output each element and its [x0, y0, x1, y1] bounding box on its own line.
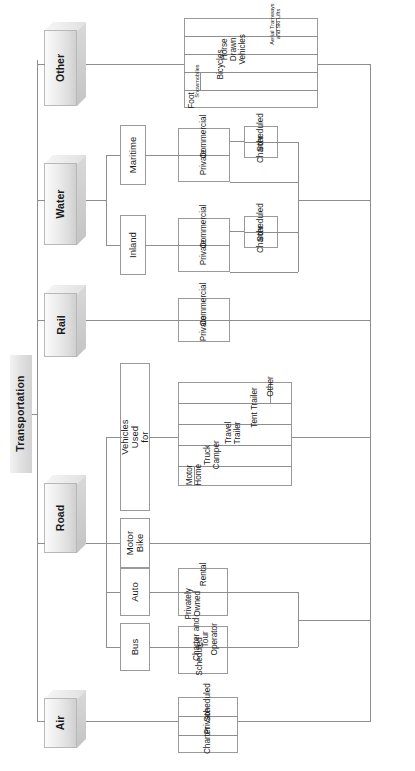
node-label-maritime: Maritime: [128, 137, 138, 173]
node-label-auto: Auto: [130, 582, 140, 602]
node-box-inland[interactable]: Inland: [120, 215, 146, 275]
inland-stub-line: [106, 245, 120, 246]
leaf-other-horse-drawn: Horse Drawn Vehicles: [221, 26, 248, 72]
leaf-veh-motor-home: Motor Home: [186, 454, 204, 496]
node-label-auto-wrap: Auto: [121, 569, 149, 615]
root-node-label: Transportation: [15, 362, 26, 466]
node-label-motor-bike-wrap: Motor Bike: [121, 519, 149, 567]
branch-label-road: Road: [55, 505, 67, 531]
auto-out-line: [150, 592, 178, 593]
auto-stub-line: [106, 592, 120, 593]
node-label-vehicles-used-for: Vehicles Used for: [120, 419, 150, 454]
node-box-maritime[interactable]: Maritime: [120, 125, 146, 185]
leaf-veh-truck-camper: Truck Camper: [204, 434, 222, 476]
leaf-veh-tent-trailer: Tent Trailer: [251, 386, 260, 428]
bus-stub-line: [106, 647, 120, 648]
branch-box-other-side: [77, 22, 86, 106]
node-label-bus-wrap: Bus: [121, 624, 149, 670]
branch-box-air-side: [77, 690, 86, 748]
road-right-merge-out: [298, 620, 370, 621]
node-label-maritime-wrap: Maritime: [121, 126, 145, 184]
other-to-trunk-line: [318, 64, 370, 65]
leaf-veh-tent-trailer-text: Tent Trailer: [250, 387, 259, 428]
maritime-private-to-trunk: [230, 182, 298, 183]
leaf-auto-rental: Rental: [200, 552, 209, 596]
node-label-inland-wrap: Inland: [121, 216, 145, 274]
diagram-canvas: Transportation Other Water Rail: [0, 0, 415, 771]
other-divider-2: [184, 54, 318, 55]
road-connector-line: [86, 543, 106, 544]
water-to-trunk-line: [298, 200, 370, 201]
branch-line-water: [37, 200, 45, 201]
leaf-veh-motor-home-text: Motor Home: [185, 464, 203, 486]
node-label-motor-bike: Motor Bike: [125, 529, 145, 557]
node-box-auto[interactable]: Auto: [120, 568, 150, 616]
inland-sub-to-trunk: [278, 232, 298, 233]
branch-line-rail: [37, 320, 45, 321]
maritime-commercial-out-line: [230, 141, 244, 142]
motorbike-to-trunk-line: [150, 543, 370, 544]
leaf-inland-scheduled: Scheduled: [257, 201, 266, 243]
branch-box-other[interactable]: Other: [44, 22, 86, 106]
leaf-maritime-commercial: Commercial: [200, 110, 209, 162]
branch-box-rail[interactable]: Rail: [44, 285, 86, 357]
node-box-bus[interactable]: Bus: [120, 623, 150, 671]
branch-box-water[interactable]: Water: [44, 155, 86, 245]
branch-box-air[interactable]: Air: [44, 690, 86, 748]
right-trunk-line: [370, 64, 371, 722]
other-divider-1: [184, 36, 318, 37]
leaf-maritime-scheduled: Scheduled: [257, 111, 266, 153]
branch-box-rail-side: [77, 285, 86, 357]
leaf-other-aerial-text: Aerial Tramways and Ski Lifts: [269, 3, 281, 44]
root-stub-line: [32, 414, 38, 415]
leaf-other-snowmobiles: Snowmobiles: [194, 58, 200, 104]
rail-to-trunk-line: [230, 320, 370, 321]
auto-to-trunk-line: [228, 592, 298, 593]
node-box-motor-bike[interactable]: Motor Bike: [120, 518, 150, 568]
motorbike-stub-line: [106, 543, 120, 544]
leaf-veh-travel-trailer: Travel Trailer: [225, 412, 243, 454]
water-connector-line: [86, 200, 106, 201]
rail-connector-line: [86, 320, 178, 321]
branch-box-water-side: [77, 155, 86, 245]
leaf-veh-travel-trailer-text: Travel Trailer: [224, 421, 242, 444]
inland-out-line: [146, 245, 178, 246]
vehicles-out-line: [150, 437, 178, 438]
branch-line-other: [37, 64, 45, 65]
branch-line-air: [37, 721, 45, 722]
node-label-vehicles-wrap: Vehicles Used for: [121, 364, 149, 510]
branch-label-water-wrap: Water: [44, 163, 77, 245]
inland-private-to-trunk: [230, 272, 298, 273]
maritime-sub-to-trunk: [278, 142, 298, 143]
node-label-inland: Inland: [128, 232, 138, 258]
branch-label-air-wrap: Air: [44, 698, 77, 748]
branch-label-water: Water: [54, 190, 66, 219]
bus-to-trunk-line: [228, 647, 298, 648]
branch-label-rail-wrap: Rail: [44, 293, 77, 357]
water-split-line: [106, 155, 107, 245]
branch-box-road-side: [77, 475, 86, 553]
leaf-other-horse-drawn-text: Horse Drawn Vehicles: [220, 34, 247, 65]
air-connector-line: [86, 721, 178, 722]
leaf-inland-commercial: Commercial: [200, 200, 209, 252]
air-to-trunk-line: [238, 721, 370, 722]
leaf-bus-charter-tour-text: Charter and Tour Operator: [192, 618, 219, 661]
leaf-rail-commercial: Commercial: [200, 278, 209, 330]
other-subline-snow: [200, 72, 201, 90]
leaf-air-scheduled: Scheduled: [204, 672, 213, 732]
bus-out-line: [150, 647, 178, 648]
leaf-bus-charter-tour: Charter and Tour Operator: [193, 617, 220, 661]
other-divider-4: [184, 90, 318, 91]
node-box-vehicles-used-for[interactable]: Vehicles Used for: [120, 363, 150, 511]
leaf-veh-truck-camper-text: Truck Camper: [203, 440, 221, 469]
branch-box-road[interactable]: Road: [44, 475, 86, 553]
branch-label-rail: Rail: [54, 315, 66, 334]
vehicles-to-trunk-line: [292, 437, 370, 438]
branch-line-road: [37, 543, 45, 544]
leaf-veh-other: Other: [267, 365, 276, 407]
other-connector-line: [86, 64, 184, 65]
branch-label-road-wrap: Road: [44, 483, 77, 553]
other-leaf-bracket: [184, 18, 318, 108]
inland-commercial-out-line: [230, 231, 244, 232]
node-label-bus: Bus: [130, 639, 140, 655]
